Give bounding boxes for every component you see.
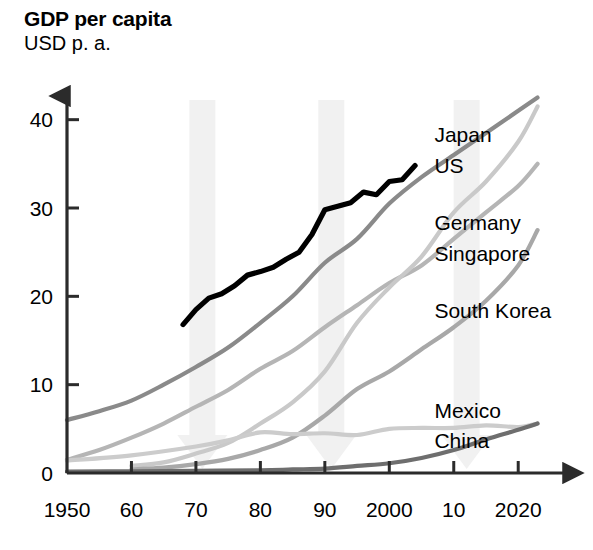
gdp-per-capita-chart: GDP per capita USD p. a. 010203040 19506… xyxy=(0,0,593,550)
x-tick-label-2000: 2000 xyxy=(366,498,413,521)
y-tick-label-0: 0 xyxy=(41,462,53,485)
x-tick-label-70: 70 xyxy=(184,498,207,521)
series-label-singapore: Singapore xyxy=(434,242,530,265)
y-tick-group: 010203040 xyxy=(30,108,79,484)
series-label-us: US xyxy=(434,154,463,177)
y-tick-label-20: 20 xyxy=(30,285,53,308)
x-tick-label-90: 90 xyxy=(313,498,336,521)
x-tick-label-80: 80 xyxy=(249,498,272,521)
x-tick-label-10: 10 xyxy=(442,498,465,521)
series-label-germany: Germany xyxy=(434,211,521,234)
series-label-japan: Japan xyxy=(434,123,491,146)
series-label-south-korea: South Korea xyxy=(434,299,551,322)
y-tick-label-30: 30 xyxy=(30,197,53,220)
x-tick-label-1950: 1950 xyxy=(44,498,91,521)
y-tick-label-40: 40 xyxy=(30,108,53,131)
series-label-china: China xyxy=(434,429,489,452)
x-tick-label-60: 60 xyxy=(120,498,143,521)
growth-arrow-1990s xyxy=(306,100,356,469)
y-tick-label-10: 10 xyxy=(30,373,53,396)
chart-canvas: 010203040 1950607080902000102020 JapanUS… xyxy=(0,0,593,550)
series-line-japan xyxy=(183,166,415,325)
x-tick-label-2020: 2020 xyxy=(495,498,542,521)
series-label-mexico: Mexico xyxy=(434,399,501,422)
